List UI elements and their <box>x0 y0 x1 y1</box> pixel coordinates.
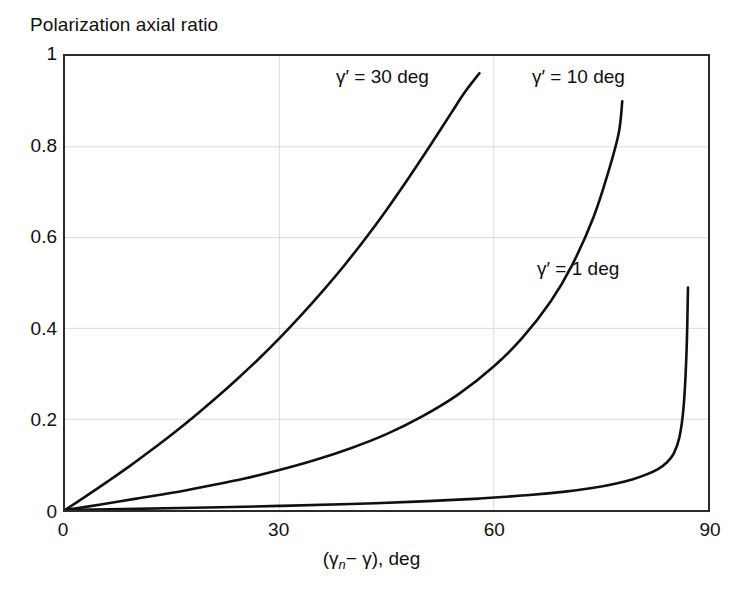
chart-figure: Polarization axial ratio 0 0.2 0.4 0.6 0… <box>0 0 743 604</box>
x-axis-tick-label: 60 <box>464 519 524 541</box>
x-axis-tick-label: 30 <box>249 519 309 541</box>
y-axis-tick-label: 0.6 <box>0 226 57 248</box>
data-curves <box>65 73 688 510</box>
x-axis-title: (γn− γ), deg <box>0 548 743 572</box>
page-title: Polarization axial ratio <box>30 14 218 36</box>
y-axis-tick-label: 1 <box>0 43 57 65</box>
curve-annotation-gamma-10: γ′ = 10 deg <box>532 66 625 88</box>
curve-annotation-gamma-30: γ′ = 30 deg <box>336 66 429 88</box>
x-axis-title-minus: − <box>346 548 357 569</box>
y-axis-tick-label: 0.4 <box>0 318 57 340</box>
x-axis-title-gamma: γ <box>362 548 372 569</box>
plot-area <box>63 54 710 512</box>
data-curve <box>65 73 479 510</box>
x-axis-tick-label: 0 <box>33 519 93 541</box>
data-curve <box>65 288 688 510</box>
x-axis-tick-label: 90 <box>680 519 740 541</box>
y-axis-tick-label: 0.8 <box>0 135 57 157</box>
data-curve <box>65 101 622 510</box>
x-axis-title-gamma-n: γ <box>329 548 339 569</box>
x-axis-title-subscript-n: n <box>339 557 346 572</box>
y-axis-tick-label: 0.2 <box>0 409 57 431</box>
curve-annotation-gamma-1: γ′ = 1 deg <box>537 258 619 280</box>
plot-canvas <box>65 56 708 510</box>
x-axis-title-close: ), deg <box>372 548 421 569</box>
